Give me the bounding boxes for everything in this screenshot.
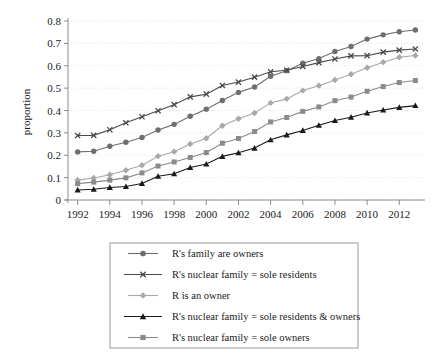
marker-diamond	[348, 71, 354, 77]
marker-square	[156, 163, 161, 168]
marker-square	[204, 150, 209, 155]
marker-circle	[75, 149, 80, 154]
marker-diamond	[155, 153, 161, 159]
marker-diamond	[267, 100, 273, 106]
marker-square	[236, 136, 241, 141]
legend-group: R's family are ownersR's nuclear family …	[110, 243, 360, 348]
legend-item-0[interactable]: R's family are owners	[128, 248, 263, 259]
legend-label: R is an owner	[172, 290, 231, 301]
legend-item-1[interactable]: R's nuclear family = sole residents	[124, 269, 317, 280]
y-axis-title: proportion	[20, 88, 32, 135]
legend-item-2[interactable]: R is an owner	[128, 290, 231, 301]
marker-x	[139, 114, 144, 119]
marker-circle	[364, 36, 369, 41]
marker-diamond	[380, 59, 386, 65]
marker-square	[332, 98, 337, 103]
marker-square	[300, 109, 305, 114]
line-chart-svg: 00.10.20.30.40.50.60.70.8 19921994199619…	[0, 0, 438, 364]
y-tick-label: 0.8	[47, 15, 61, 27]
legend-label: R's family are owners	[172, 248, 263, 259]
marker-square	[140, 335, 145, 340]
marker-diamond	[364, 65, 370, 71]
marker-triangle	[139, 180, 145, 186]
marker-x	[107, 127, 112, 132]
marker-circle	[332, 49, 337, 54]
marker-circle	[107, 144, 112, 149]
y-tick-label: 0.2	[47, 149, 61, 161]
y-tick-label: 0.3	[47, 127, 61, 139]
marker-diamond	[235, 116, 241, 122]
marker-circle	[380, 32, 385, 37]
marker-square	[220, 141, 225, 146]
marker-circle	[139, 135, 144, 140]
marker-triangle	[251, 145, 257, 151]
marker-diamond	[123, 167, 129, 173]
y-tick-label: 0.6	[47, 60, 61, 72]
marker-square	[284, 115, 289, 120]
marker-diamond	[316, 82, 322, 88]
series-line	[78, 55, 416, 180]
marker-diamond	[171, 148, 177, 154]
y-tick-label: 0	[56, 194, 62, 206]
series-line	[78, 81, 416, 184]
marker-square	[139, 170, 144, 175]
marker-square	[381, 84, 386, 89]
x-tick-label: 1996	[131, 208, 154, 220]
marker-circle	[348, 44, 353, 49]
marker-diamond	[107, 172, 113, 178]
y-tick-label: 0.7	[47, 37, 61, 49]
chart-figure: 00.10.20.30.40.50.60.70.8 19921994199619…	[0, 0, 438, 364]
legend-item-3[interactable]: R's nuclear family = sole residents & ow…	[124, 311, 360, 322]
marker-square	[107, 178, 112, 183]
x-tick-label: 2008	[324, 208, 347, 220]
marker-circle	[413, 27, 418, 32]
legend-label: R's nuclear family = sole residents & ow…	[172, 311, 360, 322]
marker-x	[172, 102, 177, 107]
marker-square	[349, 95, 354, 100]
series-2	[74, 52, 418, 183]
gridlines-group	[68, 21, 425, 200]
legend-label: R's nuclear family = sole owners	[172, 332, 310, 343]
marker-square	[91, 180, 96, 185]
marker-circle	[220, 98, 225, 103]
y-tick-label: 0.5	[47, 82, 61, 94]
x-tick-label: 2012	[388, 208, 410, 220]
marker-diamond	[284, 96, 290, 102]
marker-x	[123, 120, 128, 125]
marker-circle	[155, 127, 160, 132]
legend-label: R's nuclear family = sole residents	[172, 269, 317, 280]
x-tick-label: 2010	[356, 208, 379, 220]
x-tick-label: 2002	[227, 208, 249, 220]
marker-diamond	[139, 162, 145, 168]
y-tick-label: 0.4	[47, 105, 61, 117]
x-tick-label: 2006	[292, 208, 315, 220]
marker-square	[75, 181, 80, 186]
series-group	[74, 27, 418, 192]
marker-circle	[252, 84, 257, 89]
marker-square	[188, 155, 193, 160]
x-tick-label: 1992	[67, 208, 89, 220]
x-tick-label: 1998	[163, 208, 186, 220]
marker-square	[252, 129, 257, 134]
marker-diamond	[412, 52, 418, 58]
marker-x	[155, 108, 160, 113]
legend-item-4[interactable]: R's nuclear family = sole owners	[128, 332, 310, 343]
x-tick-label: 2004	[260, 208, 283, 220]
marker-diamond	[396, 54, 402, 60]
marker-square	[123, 175, 128, 180]
marker-circle	[123, 140, 128, 145]
marker-diamond	[140, 292, 147, 299]
marker-circle	[140, 251, 146, 257]
marker-square	[413, 78, 418, 83]
marker-square	[268, 119, 273, 124]
marker-triangle	[203, 161, 209, 167]
marker-diamond	[332, 77, 338, 83]
marker-circle	[204, 106, 209, 111]
x-tick-label: 1994	[99, 208, 122, 220]
marker-square	[397, 80, 402, 85]
marker-diamond	[251, 110, 257, 116]
axes-group	[64, 18, 425, 205]
marker-circle	[236, 90, 241, 95]
marker-circle	[188, 114, 193, 119]
y-tick-labels-group: 00.10.20.30.40.50.60.70.8	[47, 15, 61, 206]
